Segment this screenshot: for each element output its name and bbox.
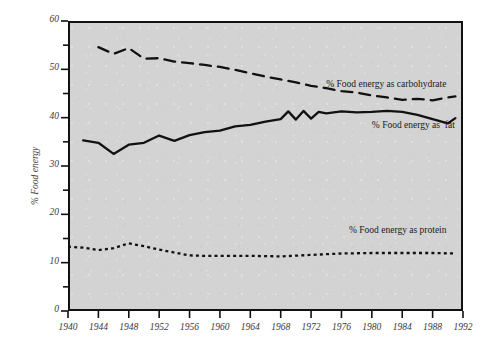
chart-overlay — [0, 0, 484, 358]
y-tick-label-20: 20 — [28, 207, 59, 217]
series-label-0: % Food energy as carbohydrate — [326, 79, 446, 89]
series-line-2 — [68, 243, 455, 256]
series-line-1 — [83, 111, 455, 154]
y-tick-label-50: 50 — [28, 62, 59, 72]
y-tick-label-10: 10 — [28, 256, 59, 266]
series-line-0 — [98, 47, 455, 100]
y-tick-label-60: 60 — [28, 14, 59, 24]
y-tick-label-40: 40 — [28, 111, 59, 121]
series-label-2: % Food energy as protein — [349, 225, 446, 235]
y-axis-title: % Food energy — [30, 147, 40, 205]
series-label-1: % Food energy as fat — [372, 120, 455, 130]
chart-container: 0102030405060 19401944194819521956196019… — [0, 0, 484, 358]
y-tick-label-0: 0 — [28, 304, 59, 314]
x-tick-label-1992: 1992 — [443, 322, 483, 332]
